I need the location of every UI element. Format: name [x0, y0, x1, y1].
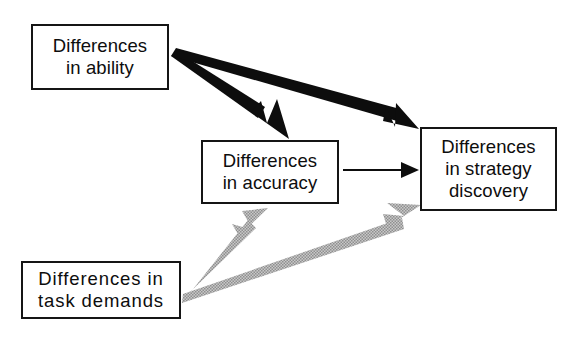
node-label-line: Differences: [441, 136, 535, 158]
node-label-line: Differences: [53, 35, 147, 57]
node-differences-in-strategy-discovery[interactable]: Differences in strategy discovery: [420, 127, 557, 211]
edge-demands-to-strategy: [182, 203, 421, 303]
edge-accuracy-to-strategy: [343, 162, 419, 178]
node-differences-in-ability[interactable]: Differences in ability: [31, 24, 169, 90]
node-label-line: in strategy: [445, 158, 531, 180]
node-label-line: discovery: [449, 180, 528, 202]
diagram-canvas: Differences in ability Differences in ac…: [0, 0, 579, 337]
node-differences-in-task-demands[interactable]: Differences in task demands: [21, 261, 181, 319]
node-label-line: in ability: [66, 57, 134, 79]
edge-ability-to-strategy: [171, 48, 419, 129]
node-label-line: Differences: [223, 150, 317, 172]
node-differences-in-accuracy[interactable]: Differences in accuracy: [201, 140, 339, 204]
node-label-line: task demands: [38, 290, 164, 312]
edge-demands-to-accuracy: [182, 208, 268, 303]
node-label-line: Differences in: [38, 268, 163, 290]
node-label-line: in accuracy: [223, 172, 318, 194]
